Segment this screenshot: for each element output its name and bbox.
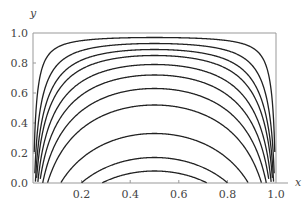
y-tick-labels: 0.0 0.2 0.4 0.6 0.8 1.0	[11, 27, 29, 190]
x-tick-label: 0.2	[73, 188, 91, 201]
y-tick-label: 0.4	[11, 117, 29, 130]
level-curve	[35, 50, 273, 182]
x-tick-label: 0.4	[121, 188, 139, 201]
level-curve	[38, 65, 271, 182]
x-tick-label: 1.0	[267, 188, 285, 201]
x-tick-label: 0.6	[170, 188, 188, 201]
y-tick-label: 0.6	[11, 87, 29, 100]
level-curve	[40, 75, 268, 179]
level-curves	[34, 38, 275, 183]
y-axis-label: y	[29, 7, 37, 20]
level-curve	[102, 171, 207, 183]
x-axis-label: x	[295, 176, 302, 189]
y-tick-label: 0.0	[11, 177, 29, 190]
level-curves-chart: 0.0 0.2 0.4 0.6 0.8 1.0 0.2 0.4 0.6 0.8 …	[0, 0, 308, 213]
x-tick-labels: 0.2 0.4 0.6 0.8 1.0	[73, 188, 285, 201]
y-tick-label: 1.0	[11, 27, 29, 40]
y-tick-label: 0.8	[11, 57, 29, 70]
y-tick-label: 0.2	[11, 147, 29, 160]
level-curve	[37, 56, 273, 178]
level-curve	[35, 44, 274, 174]
x-tick-label: 0.8	[219, 188, 237, 201]
level-curve	[82, 158, 228, 183]
level-curve	[43, 89, 267, 183]
